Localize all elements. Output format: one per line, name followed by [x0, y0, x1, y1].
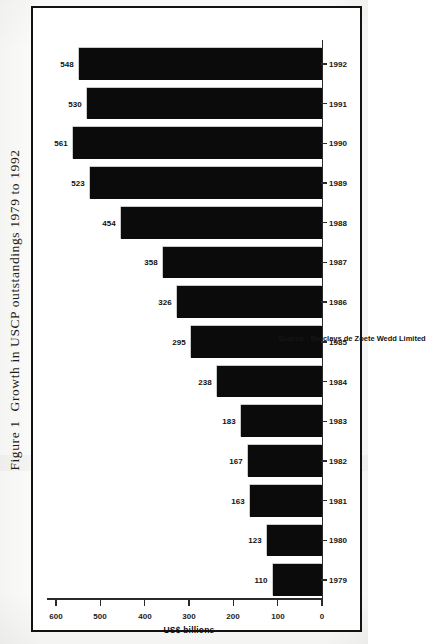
category-axis-label-text: 1979 [329, 576, 347, 585]
category-axis-tick [321, 63, 327, 64]
bar [267, 525, 322, 557]
category-axis-label-text: 1984 [329, 377, 347, 386]
bar-value-label-text: 548 [60, 59, 73, 68]
value-axis-tick [188, 599, 189, 606]
bar-value-label-text: 123 [249, 536, 262, 545]
category-axis-label-text: 1992 [329, 59, 347, 68]
bar-value-label-text: 454 [102, 218, 115, 227]
category-axis-label-text: 1986 [329, 298, 347, 307]
bar [90, 167, 322, 199]
bar [250, 485, 322, 517]
value-axis-tick-label-text: 0 [320, 612, 324, 621]
category-axis-tick [321, 500, 327, 501]
category-axis-label-text: 1987 [329, 258, 347, 267]
bar-value-label-text: 523 [71, 179, 84, 188]
category-axis-line [47, 599, 323, 601]
value-axis-tick [144, 599, 145, 606]
value-axis-tick-label-text: 500 [94, 612, 107, 621]
value-axis-tick [55, 599, 56, 606]
figure-caption: Figure 1Growth in USCP outstandings 1979… [7, 145, 23, 475]
value-axis-tick [100, 599, 101, 606]
category-axis-label-text: 1983 [329, 417, 347, 426]
category-axis-tick [321, 421, 327, 422]
value-axis-tick [277, 599, 278, 606]
value-axis-tick [321, 599, 322, 606]
chart-rotated-canvas: 0100200300400500600US$ billions110197912… [33, 8, 359, 628]
value-axis-tick-label-text: 600 [49, 612, 62, 621]
value-axis-tick-label-text: 300 [182, 612, 195, 621]
bar-value-label-text: 167 [229, 457, 242, 466]
figure-number: Figure 1 [7, 420, 22, 470]
value-axis-tick-label-text: 400 [138, 612, 151, 621]
source-note-text: Source : Barclays de Zoete Wedd Limited [278, 333, 425, 342]
category-axis-label-text: 1980 [329, 536, 347, 545]
bar-value-label-text: 238 [198, 377, 211, 386]
category-axis-label-text: 1990 [329, 139, 347, 148]
figure-caption-text: Growth in USCP outstandings 1979 to 1992 [7, 149, 22, 411]
category-axis-tick [321, 262, 327, 263]
bar-value-label-text: 530 [68, 99, 81, 108]
value-axis-title-text: US$ billions [163, 625, 214, 635]
category-axis-label-text: 1982 [329, 457, 347, 466]
bar [273, 564, 322, 596]
bar-value-label-text: 326 [159, 298, 172, 307]
value-axis-tick-label-text: 100 [271, 612, 284, 621]
bar [217, 366, 323, 398]
bar [121, 207, 322, 239]
category-axis-label-text: 1988 [329, 218, 347, 227]
bar-value-label-text: 183 [222, 417, 235, 426]
bar [248, 445, 322, 477]
value-axis-tick-label-text: 200 [227, 612, 240, 621]
bar-value-label-text: 163 [231, 496, 244, 505]
bar-chart-plot: 0100200300400500600US$ billions110197912… [33, 8, 359, 628]
category-axis-tick [321, 143, 327, 144]
bar [163, 247, 322, 279]
bar-value-label-text: 358 [145, 258, 158, 267]
chart-frame: 0100200300400500600US$ billions110197912… [31, 6, 362, 632]
category-axis-label-text: 1991 [329, 99, 347, 108]
category-axis-tick [321, 301, 327, 302]
category-axis-tick [321, 540, 327, 541]
bar [87, 88, 322, 120]
bar [79, 48, 322, 80]
category-axis-label-text: 1981 [329, 496, 347, 505]
category-axis-tick [321, 460, 327, 461]
category-axis-tick [321, 579, 327, 580]
category-axis-tick [321, 182, 327, 183]
category-axis-tick [321, 103, 327, 104]
bar [73, 127, 322, 159]
bar [177, 286, 322, 318]
bar-value-label-text: 295 [173, 337, 186, 346]
value-axis-tick [233, 599, 234, 606]
category-axis-label-text: 1989 [329, 179, 347, 188]
bar-value-label-text: 110 [255, 576, 268, 585]
category-axis-tick [321, 381, 327, 382]
category-axis-tick [321, 222, 327, 223]
bar-value-label-text: 561 [55, 139, 68, 148]
bar [241, 405, 322, 437]
